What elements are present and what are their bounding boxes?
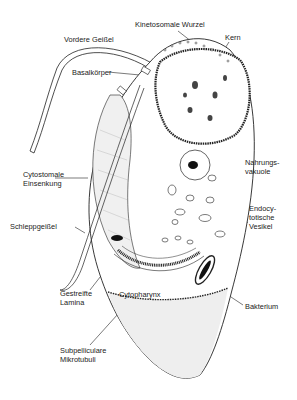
- label-cytopharynx: Cytopharynx: [119, 290, 161, 299]
- label-vordere-geissel: Vordere Geißel: [64, 35, 114, 44]
- label-gestreifte-lamina: Gestreifte Lamina: [60, 289, 92, 307]
- label-schleppgeissel: Schleppgeißel: [10, 222, 57, 231]
- nucleus: [155, 49, 249, 144]
- label-kern: Kern: [225, 33, 241, 42]
- label-nahrungsvakuole: Nahrungs- vakuole: [245, 158, 280, 176]
- label-bakterium: Bakterium: [245, 302, 278, 311]
- label-endocytotische-vesikel: Endocy- totische Vesikel: [249, 204, 276, 231]
- food-vacuole: [180, 150, 210, 180]
- label-cytostomale-einsenkung: Cytostomale Einsenkung: [23, 170, 64, 188]
- label-subpelliculare-mikrotubuli: Subpelliculare Mikrotubuli: [60, 346, 106, 364]
- label-basalkoerper: Basalkörper: [72, 68, 111, 77]
- label-kinetosomale-wurzel: Kinetosomale Wurzel: [135, 20, 205, 29]
- cell-diagram: [0, 0, 297, 400]
